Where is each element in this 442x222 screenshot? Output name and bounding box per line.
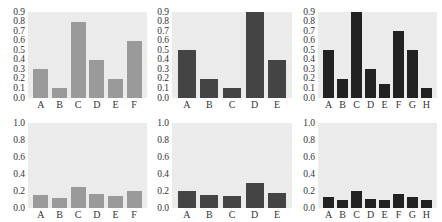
bar-F bbox=[127, 41, 142, 98]
bar-B bbox=[200, 79, 218, 98]
y-tick-label: 0.3 bbox=[1, 65, 25, 74]
y-tick-label: 0.5 bbox=[1, 46, 25, 55]
bar-C bbox=[351, 12, 362, 98]
x-tick-label: H bbox=[419, 99, 433, 110]
y-tick-label: 0.0 bbox=[1, 204, 25, 213]
bar-B bbox=[200, 195, 218, 208]
y-tick-label: 0.1 bbox=[145, 84, 169, 93]
bar-D bbox=[246, 183, 264, 209]
bar-A bbox=[33, 195, 48, 208]
x-tick-label: E bbox=[377, 209, 391, 220]
bar-D bbox=[89, 60, 104, 98]
x-tick-label: E bbox=[270, 99, 284, 110]
y-tick-label: 0.2 bbox=[145, 187, 169, 196]
bar-D bbox=[365, 69, 376, 98]
plot-area-bottom-right bbox=[318, 123, 437, 208]
y-tick-label: 0.8 bbox=[291, 17, 315, 26]
bar-F bbox=[127, 191, 142, 208]
x-tick-label: F bbox=[391, 209, 405, 220]
x-tick-label: D bbox=[248, 209, 262, 220]
y-tick-label: 0.5 bbox=[145, 46, 169, 55]
y-tick-label: 0.6 bbox=[145, 153, 169, 162]
y-tick-label: 0.0 bbox=[145, 94, 169, 103]
x-tick-label: E bbox=[108, 209, 122, 220]
bar-G bbox=[407, 197, 418, 208]
x-tick-label: B bbox=[53, 209, 67, 220]
y-tick-label: 0.8 bbox=[145, 17, 169, 26]
bar-E bbox=[268, 60, 286, 98]
y-tick-label: 0.8 bbox=[1, 17, 25, 26]
y-tick-label: 0.4 bbox=[1, 170, 25, 179]
bar-D bbox=[365, 199, 376, 208]
y-tick-label: 0.4 bbox=[1, 55, 25, 64]
y-tick-label: 0.6 bbox=[1, 153, 25, 162]
x-tick-label: B bbox=[202, 209, 216, 220]
x-tick-label: C bbox=[71, 99, 85, 110]
y-tick-label: 0.9 bbox=[145, 8, 169, 17]
y-tick-label: 0.6 bbox=[1, 36, 25, 45]
y-tick-label: 0.0 bbox=[145, 204, 169, 213]
bar-H bbox=[421, 200, 432, 208]
plot-area-bottom-left bbox=[28, 123, 147, 208]
bar-E bbox=[379, 84, 390, 98]
bar-A bbox=[178, 191, 196, 208]
x-tick-label: C bbox=[225, 99, 239, 110]
bar-G bbox=[407, 50, 418, 98]
bar-B bbox=[337, 200, 348, 209]
y-tick-label: 0.6 bbox=[145, 36, 169, 45]
x-tick-label: H bbox=[419, 209, 433, 220]
bar-E bbox=[268, 193, 286, 208]
x-tick-label: C bbox=[225, 209, 239, 220]
bar-B bbox=[52, 88, 67, 98]
bar-B bbox=[52, 198, 67, 208]
bar-C bbox=[223, 196, 241, 208]
plot-area-top-middle bbox=[172, 12, 292, 98]
y-tick-label: 0.0 bbox=[1, 94, 25, 103]
x-tick-label: B bbox=[202, 99, 216, 110]
bar-F bbox=[393, 31, 404, 98]
y-tick-label: 0.0 bbox=[291, 94, 315, 103]
y-tick-label: 0.0 bbox=[291, 204, 315, 213]
x-tick-label: G bbox=[405, 99, 419, 110]
bar-C bbox=[71, 187, 86, 208]
plot-area-bottom-middle bbox=[172, 123, 292, 208]
bar-A bbox=[323, 50, 334, 98]
x-tick-label: B bbox=[336, 99, 350, 110]
y-tick-label: 0.4 bbox=[291, 170, 315, 179]
y-tick-label: 0.1 bbox=[1, 84, 25, 93]
y-tick-label: 0.7 bbox=[1, 27, 25, 36]
bar-F bbox=[393, 194, 404, 208]
x-tick-label: D bbox=[248, 99, 262, 110]
x-tick-label: A bbox=[34, 209, 48, 220]
y-tick-label: 1.0 bbox=[1, 119, 25, 128]
x-tick-label: F bbox=[127, 209, 141, 220]
x-tick-label: D bbox=[90, 209, 104, 220]
x-tick-label: A bbox=[34, 99, 48, 110]
x-tick-label: C bbox=[71, 209, 85, 220]
x-tick-label: B bbox=[53, 99, 67, 110]
bar-A bbox=[33, 69, 48, 98]
y-tick-label: 0.2 bbox=[145, 74, 169, 83]
x-tick-label: A bbox=[322, 99, 336, 110]
x-tick-label: C bbox=[350, 209, 364, 220]
x-tick-label: D bbox=[364, 209, 378, 220]
y-tick-label: 0.8 bbox=[291, 136, 315, 145]
bar-H bbox=[421, 88, 432, 98]
x-tick-label: A bbox=[180, 209, 194, 220]
y-tick-label: 0.8 bbox=[1, 136, 25, 145]
y-tick-label: 0.2 bbox=[1, 74, 25, 83]
x-tick-label: E bbox=[108, 99, 122, 110]
y-tick-label: 0.9 bbox=[1, 8, 25, 17]
bar-E bbox=[108, 79, 123, 98]
x-tick-label: D bbox=[90, 99, 104, 110]
bar-D bbox=[89, 194, 104, 208]
x-tick-label: F bbox=[127, 99, 141, 110]
x-tick-label: D bbox=[364, 99, 378, 110]
y-tick-label: 0.6 bbox=[291, 36, 315, 45]
bar-D bbox=[246, 12, 264, 98]
y-tick-label: 0.4 bbox=[145, 55, 169, 64]
bar-C bbox=[223, 88, 241, 98]
y-tick-label: 0.6 bbox=[291, 153, 315, 162]
y-tick-label: 0.2 bbox=[291, 187, 315, 196]
plot-area-top-left bbox=[28, 12, 147, 98]
